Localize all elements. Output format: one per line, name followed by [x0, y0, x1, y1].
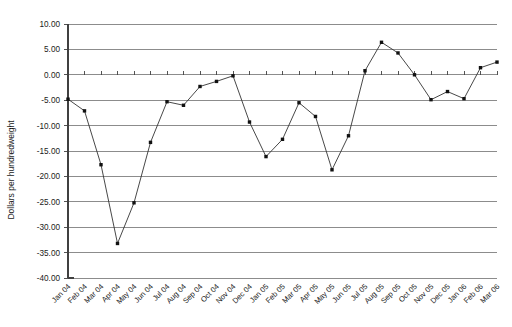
x-tick-labels-group: Jan 04Feb 04Mar 04Apr 04May 04Jun 04Jul … [50, 282, 501, 306]
data-point-marker [446, 90, 449, 93]
data-point-marker [495, 60, 498, 63]
x-tick-label: Jun 04 [132, 282, 154, 304]
y-tick-label: 5.00 [44, 45, 60, 54]
y-tick-label: -40.00 [37, 274, 61, 283]
data-point-marker [165, 100, 168, 103]
data-point-marker [363, 69, 366, 72]
chart-container: 10.005.000.00-5.00-10.00-15.00-20.00-25.… [0, 0, 512, 327]
gridlines-group [68, 24, 497, 278]
y-tick-label: -20.00 [37, 172, 61, 181]
data-point-marker [347, 134, 350, 137]
y-tick-label: -10.00 [37, 122, 61, 131]
data-point-marker [248, 120, 251, 123]
data-point-marker [396, 51, 399, 54]
x-tick-label: Jun 05 [330, 282, 352, 304]
data-point-marker [314, 115, 317, 118]
data-point-marker [380, 41, 383, 44]
data-point-marker [264, 155, 267, 158]
data-point-marker [429, 98, 432, 101]
y-tick-label: -5.00 [41, 96, 60, 105]
x-tickmarks-group [68, 71, 497, 75]
data-point-marker [83, 109, 86, 112]
y-tick-labels-group: 10.005.000.00-5.00-10.00-15.00-20.00-25.… [37, 20, 61, 283]
y-axis-title: Dollars per hundredweight [6, 120, 16, 220]
data-point-marker [149, 141, 152, 144]
data-point-marker [99, 163, 102, 166]
data-point-marker [297, 101, 300, 104]
data-point-marker [231, 74, 234, 77]
data-point-marker [182, 104, 185, 107]
data-point-marker [215, 80, 218, 83]
line-chart: 10.005.000.00-5.00-10.00-15.00-20.00-25.… [0, 0, 512, 327]
y-tick-label: -25.00 [37, 198, 61, 207]
data-point-marker [281, 138, 284, 141]
data-point-marker [132, 201, 135, 204]
data-point-marker [330, 168, 333, 171]
data-point-marker [198, 85, 201, 88]
data-point-marker [116, 242, 119, 245]
data-point-marker [479, 66, 482, 69]
data-point-marker [462, 97, 465, 100]
data-point-marker [413, 73, 416, 76]
y-tick-label: -30.00 [37, 223, 61, 232]
y-tick-label: 10.00 [40, 20, 61, 29]
y-tick-label: -35.00 [37, 249, 61, 258]
y-tick-label: -15.00 [37, 147, 61, 156]
data-point-marker [66, 97, 69, 100]
y-tick-label: 0.00 [44, 71, 60, 80]
